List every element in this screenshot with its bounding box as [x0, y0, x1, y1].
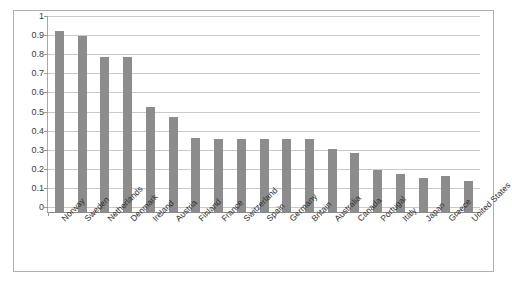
gridline: [48, 112, 480, 113]
y-tick-label: 0.3: [14, 146, 44, 155]
y-tick-label: 1: [14, 12, 44, 21]
gridline: [48, 73, 480, 74]
x-tick-mark: [71, 212, 72, 216]
x-tick-mark: [184, 212, 185, 216]
y-tick-mark: [44, 112, 48, 113]
y-tick-mark: [44, 16, 48, 17]
x-tick-mark: [389, 212, 390, 216]
x-tick-mark: [412, 212, 413, 216]
y-tick-mark: [44, 169, 48, 170]
bar: [419, 178, 428, 212]
bar: [123, 57, 132, 212]
x-tick-mark: [480, 212, 481, 216]
chart-frame: 10.90.80.70.60.50.40.30.20.10 NorwaySwed…: [13, 10, 494, 272]
bar: [100, 57, 109, 212]
x-tick-mark: [435, 212, 436, 216]
bar: [78, 36, 87, 212]
x-tick-mark: [321, 212, 322, 216]
y-tick-mark: [44, 54, 48, 55]
x-tick-mark: [139, 212, 140, 216]
y-tick-label: 0.1: [14, 184, 44, 193]
x-tick-mark: [298, 212, 299, 216]
y-tick-label: 0: [14, 203, 44, 212]
x-tick-mark: [162, 212, 163, 216]
x-tick-mark: [275, 212, 276, 216]
x-tick-mark: [344, 212, 345, 216]
y-tick-label: 0.4: [14, 127, 44, 136]
x-tick-mark: [457, 212, 458, 216]
y-tick-mark: [44, 73, 48, 74]
x-tick-mark: [48, 212, 49, 216]
gridline: [48, 16, 480, 17]
y-tick-label: 0.6: [14, 88, 44, 97]
bar: [169, 117, 178, 213]
gridline: [48, 92, 480, 93]
x-tick-mark: [253, 212, 254, 216]
x-axis-tick-labels: NorwaySwedenNetherlandsDenmarkIrelandAus…: [48, 217, 480, 273]
x-tick-mark: [230, 212, 231, 216]
y-tick-mark: [44, 188, 48, 189]
y-tick-label: 0.5: [14, 108, 44, 117]
y-tick-mark: [44, 150, 48, 151]
x-tick-mark: [207, 212, 208, 216]
y-tick-label: 0.8: [14, 50, 44, 59]
plot-area: [48, 16, 480, 212]
bar: [55, 31, 64, 212]
gridline: [48, 54, 480, 55]
y-tick-label: 0.9: [14, 31, 44, 40]
y-axis-tick-labels: 10.90.80.70.60.50.40.30.20.10: [14, 11, 44, 271]
y-tick-label: 0.2: [14, 165, 44, 174]
gridline: [48, 131, 480, 132]
y-tick-mark: [44, 131, 48, 132]
y-tick-label: 0.7: [14, 69, 44, 78]
x-tick-mark: [366, 212, 367, 216]
y-tick-mark: [44, 92, 48, 93]
y-tick-mark: [44, 207, 48, 208]
gridline: [48, 35, 480, 36]
bar: [282, 139, 291, 212]
x-tick-mark: [116, 212, 117, 216]
y-tick-mark: [44, 35, 48, 36]
x-tick-mark: [93, 212, 94, 216]
